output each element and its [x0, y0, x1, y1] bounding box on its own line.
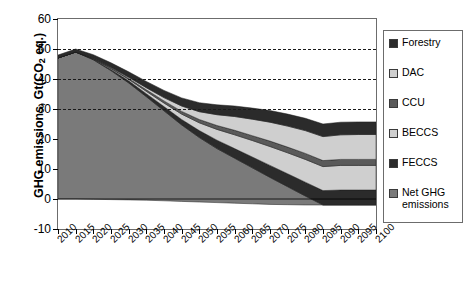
y-axis-tick [53, 19, 58, 20]
x-axis-tick-label: 2100 [373, 221, 397, 245]
gridline [58, 79, 376, 80]
plot-inner [58, 19, 376, 229]
legend-swatch-icon [389, 39, 398, 48]
legend-swatch-icon [389, 189, 398, 198]
legend-swatch-icon [389, 159, 398, 168]
legend-item-label: CCU [402, 97, 425, 109]
legend-item-label: FECCS [402, 157, 438, 169]
y-axis-tick-label: 50 [38, 42, 51, 56]
gridline [58, 109, 376, 110]
legend-item[interactable]: Net GHGemissions [389, 187, 458, 217]
legend-item[interactable]: FECCS [389, 157, 458, 187]
legend-item[interactable]: DAC [389, 67, 458, 97]
legend: ForestryDACCCUBECCSFECCSNet GHGemissions [383, 30, 463, 223]
y-axis-tick-label: 10 [38, 162, 51, 176]
legend-item-label: BECCS [402, 127, 438, 139]
y-axis-title-subscript: 2 [37, 58, 47, 63]
legend-swatch-icon [389, 69, 398, 78]
plot-area: 6050403020100-10201020152020202520302035… [57, 18, 377, 230]
gridline [58, 49, 376, 50]
y-axis-tick-label: -10 [34, 222, 51, 236]
y-axis-tick [53, 169, 58, 170]
stacked-area-series [58, 19, 376, 229]
y-axis-tick-label: 0 [44, 192, 51, 206]
y-axis-tick-label: 20 [38, 132, 51, 146]
legend-item-label-line2: emissions [402, 199, 449, 211]
legend-swatch-icon [389, 129, 398, 138]
legend-swatch-icon [389, 99, 398, 108]
legend-item-label: DAC [402, 67, 424, 79]
y-axis-tick-label: 30 [38, 102, 51, 116]
y-axis-tick-label: 60 [38, 12, 51, 26]
y-axis-tick [53, 199, 58, 200]
chart-figure: GHG emissions, Gt(CO2 eq.) 6050403020100… [0, 0, 467, 285]
legend-item-label: Forestry [402, 37, 441, 49]
y-axis-tick [53, 139, 58, 140]
legend-item[interactable]: Forestry [389, 37, 458, 67]
legend-item[interactable]: BECCS [389, 127, 458, 157]
legend-item-label: Net GHGemissions [402, 187, 449, 210]
legend-item[interactable]: CCU [389, 97, 458, 127]
y-axis-tick-label: 40 [38, 72, 51, 86]
